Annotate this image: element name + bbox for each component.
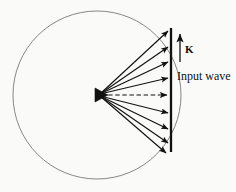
ray-fan-upper: [100, 31, 168, 94]
ray-4: [100, 78, 168, 94]
input-wave-label: Input wave: [177, 70, 231, 82]
ray-3: [100, 62, 168, 94]
ray-7: [100, 96, 168, 129]
figure-container: K Input wave: [0, 0, 236, 192]
ray-1: [100, 31, 168, 94]
ray-8: [100, 96, 168, 143]
scattering-diagram-svg: [0, 0, 236, 192]
ray-fan-lower: [100, 96, 168, 153]
k-vector-label: K: [185, 44, 194, 55]
ray-2: [100, 47, 168, 94]
